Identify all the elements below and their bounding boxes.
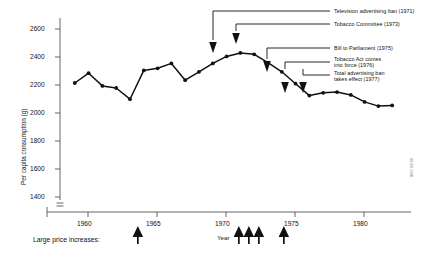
x-axis	[47, 207, 411, 217]
price-arrow-1975a	[234, 226, 245, 244]
figure-container: 2600 2400 2200 2000 1800 1600 1400 1960 …	[0, 0, 427, 261]
y-axis-title: Per capita consumption (g)	[20, 109, 27, 185]
y-tick-label-2400: 2400	[30, 53, 45, 60]
y-tick-label-1800: 1800	[30, 137, 45, 144]
arrowhead-tobacco-act	[281, 82, 289, 93]
price-increase-note: Large price increases:	[33, 236, 100, 243]
y-tick-label-2000: 2000	[30, 109, 45, 116]
price-arrow-1978	[279, 226, 290, 244]
x-axis-ticks	[88, 212, 364, 217]
y-tick-label-2200: 2200	[30, 81, 45, 88]
annotation-tobacco-act: Tobacco Act comes into force (1976)	[334, 56, 381, 68]
annotation-total-advertising-ban: Total advertising ban takes effect (1977…	[334, 70, 385, 82]
figure-credit: BMJ 8Z/06	[410, 158, 414, 177]
price-increase-arrows	[133, 226, 290, 244]
price-arrow-1976	[254, 226, 265, 244]
y-tick-label-1600: 1600	[30, 165, 45, 172]
y-axis-ticks	[55, 29, 60, 197]
x-tick-label-1965: 1965	[146, 220, 161, 227]
arrowhead-bill	[263, 61, 271, 72]
y-tick-label-2600: 2600	[30, 25, 45, 32]
price-arrow-1964	[133, 226, 144, 244]
y-axis	[55, 18, 64, 206]
arrowhead-tv-ban	[209, 42, 217, 53]
annotation-tobacco-committee: Tobacco Committee (1973)	[334, 21, 400, 27]
y-tick-label-1400: 1400	[30, 193, 45, 200]
price-arrow-1975b	[244, 226, 255, 244]
x-tick-label-1975: 1975	[284, 220, 299, 227]
x-axis-title: Year	[217, 234, 230, 241]
x-tick-label-1980: 1980	[353, 220, 368, 227]
annotation-arrowheads	[209, 33, 307, 93]
x-tick-label-1960: 1960	[77, 220, 92, 227]
x-tick-label-1970: 1970	[215, 220, 230, 227]
arrowhead-tobacco-cmte	[232, 33, 240, 44]
annotation-bill-to-parliament: Bill to Parliament (1975)	[334, 45, 393, 51]
annotation-tv-advertising-ban: Television advertising ban (1971)	[334, 8, 414, 14]
